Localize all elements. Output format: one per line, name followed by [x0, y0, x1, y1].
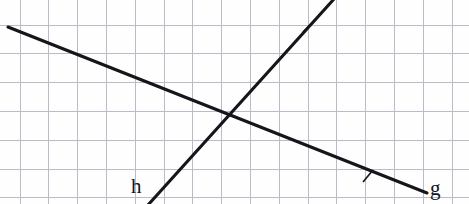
line-h-tick-mark [303, 20, 315, 32]
graph-canvas: h g [0, 0, 469, 204]
line-label-g: g [430, 176, 441, 200]
grid-vertical-lines [20, 0, 452, 204]
line-g-group [8, 27, 427, 193]
line-h-group [148, 0, 334, 204]
line-label-h: h [131, 174, 142, 198]
line-g [8, 27, 427, 193]
line-h [148, 0, 334, 204]
line-g-tick-mark [363, 170, 373, 182]
graph-figure: h g [0, 0, 469, 204]
